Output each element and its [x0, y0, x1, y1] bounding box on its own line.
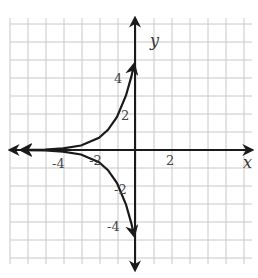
coordinate-plane: -4 -2 2 4 2 -2 -4 x y — [0, 0, 258, 278]
y-tick-label: -2 — [114, 182, 127, 197]
y-tick-label: 4 — [114, 71, 122, 86]
y-axis-label: y — [149, 31, 160, 50]
y-tick-label: -4 — [107, 219, 120, 234]
grid-lines — [10, 18, 252, 264]
x-tick-label: -2 — [89, 153, 102, 168]
x-axis-label: x — [243, 153, 252, 172]
x-tick-label: -4 — [52, 156, 65, 171]
y-tick-label: 2 — [121, 108, 129, 123]
x-tick-label: 2 — [166, 153, 174, 168]
